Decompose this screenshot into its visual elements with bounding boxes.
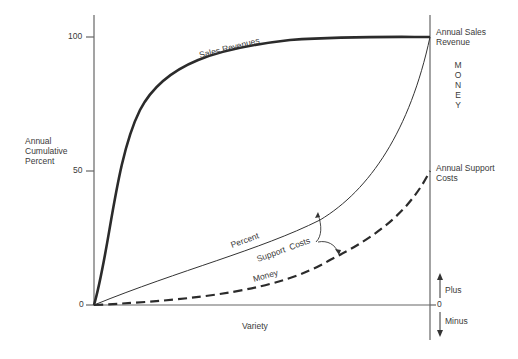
arrow-to-money <box>318 242 338 252</box>
sales-revenues-label: Sales Revenues <box>198 35 260 60</box>
right-zero-label: 0 <box>437 299 442 310</box>
minus-arrow-icon <box>437 330 443 337</box>
right-label-support-2: Costs <box>436 173 458 184</box>
right-label-sales-2: Revenue <box>436 37 470 48</box>
x-axis-title: Variety <box>242 321 268 332</box>
y-axis-title-line-3: Percent <box>25 156 54 167</box>
money-letter-m: M <box>453 60 463 70</box>
tick-label-100: 100 <box>68 31 82 42</box>
tick-label-50: 50 <box>73 165 82 176</box>
plus-label: Plus <box>445 285 462 296</box>
support-costs-money-curve <box>94 171 430 305</box>
money-vertical-label: M O N E Y <box>453 60 463 110</box>
money-letter-y: Y <box>453 100 463 110</box>
money-letter-o: O <box>453 70 463 80</box>
support-costs-label: Support Costs <box>255 235 311 264</box>
arrow-to-percent <box>316 214 321 242</box>
sales-revenues-curve <box>94 37 430 305</box>
minus-label: Minus <box>445 316 468 327</box>
arrow-head-percent <box>315 212 320 218</box>
plus-arrow-icon <box>437 273 443 280</box>
tick-label-0: 0 <box>79 299 84 310</box>
support-costs-percent-curve <box>94 37 430 305</box>
money-letter-n: N <box>453 80 463 90</box>
money-letter-e: E <box>453 90 463 100</box>
